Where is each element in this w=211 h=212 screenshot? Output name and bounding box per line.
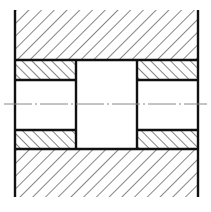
lower-housing-hatch bbox=[15, 149, 198, 197]
upper-right-sleeve-hatch bbox=[137, 60, 198, 80]
upper-housing-hatch bbox=[15, 10, 198, 60]
lower-right-sleeve-hatch bbox=[137, 130, 198, 149]
upper-left-sleeve-hatch bbox=[15, 60, 76, 80]
section-drawing bbox=[0, 0, 211, 212]
lower-left-sleeve-hatch bbox=[15, 130, 76, 149]
